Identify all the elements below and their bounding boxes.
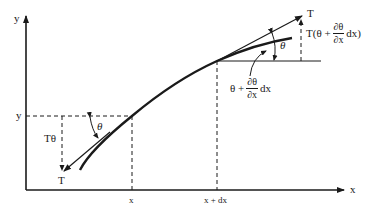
right-angle-arc: [272, 33, 275, 60]
angle-fraction-denominator: ∂x: [247, 89, 257, 100]
x-axis-label: x: [350, 184, 356, 195]
angle-expression-label: θ + ∂θ ∂x dx: [230, 77, 271, 100]
angle-partial-fraction: ∂θ ∂x: [246, 77, 258, 100]
x-tick-x-plus-dx: x + dx: [204, 196, 227, 205]
vertical-component-suffix: dx): [346, 28, 361, 39]
fraction-denominator: ∂x: [334, 34, 344, 45]
left-vertical-component-label: Tθ: [44, 133, 56, 144]
vertical-component-prefix: T(θ +: [306, 28, 331, 39]
left-angle-label: θ: [97, 121, 102, 132]
x-tick-x: x: [129, 196, 134, 205]
partial-derivative-fraction: ∂θ ∂x: [333, 22, 345, 45]
angle-expression-suffix: dx: [260, 83, 271, 94]
angle-leader-arrow: [250, 51, 266, 76]
fraction-numerator: ∂θ: [333, 22, 345, 34]
right-vertical-component-label: T(θ + ∂θ ∂x dx): [306, 22, 361, 45]
right-angle-label: θ: [280, 40, 285, 51]
y-axis-label: y: [14, 13, 20, 24]
angle-fraction-numerator: ∂θ: [246, 77, 258, 89]
right-tension-label: T: [307, 8, 314, 19]
left-tension-label: T: [58, 175, 65, 186]
string-curve: [80, 38, 292, 170]
y-tick-y: y: [16, 110, 22, 121]
left-tension-arrow: [64, 132, 110, 171]
angle-expression-prefix: θ +: [230, 83, 244, 94]
